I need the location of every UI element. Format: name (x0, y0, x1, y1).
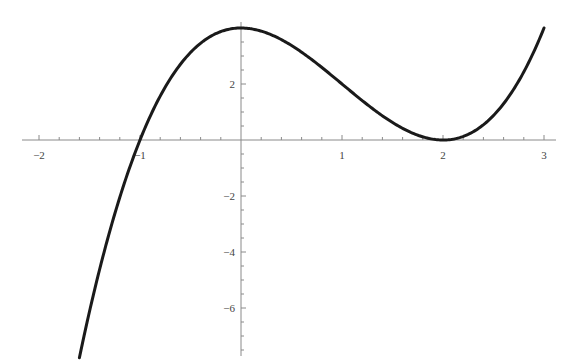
function-curve (79, 28, 544, 358)
y-tick-label: −6 (223, 302, 235, 314)
axes (22, 22, 556, 356)
x-tick-label: −2 (33, 149, 45, 161)
x-tick-label: 2 (440, 149, 446, 161)
axis-ticks (39, 28, 544, 350)
tick-labels: −2−11232−2−4−6 (33, 78, 547, 314)
function-plot: −2−11232−2−4−6 (0, 0, 579, 363)
y-tick-label: 2 (230, 78, 236, 90)
y-tick-label: −4 (223, 246, 235, 258)
x-tick-label: 1 (339, 149, 345, 161)
y-tick-label: −2 (223, 190, 235, 202)
x-tick-label: 3 (541, 149, 547, 161)
